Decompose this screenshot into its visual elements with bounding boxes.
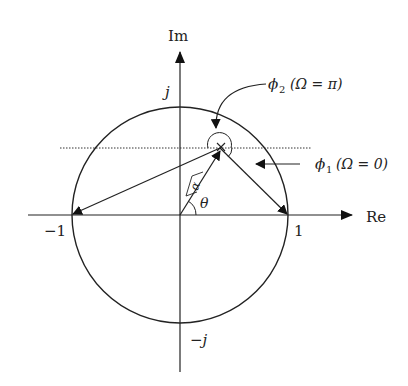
phi2-condition: (Ω = π) — [290, 76, 342, 92]
vector-to-plus-one — [220, 148, 287, 214]
phi1-condition: (Ω = 0) — [336, 156, 388, 172]
real-axis-label: Re — [366, 208, 386, 226]
imag-axis-label: Im — [168, 27, 188, 45]
tick-neg-j-label: −j — [190, 331, 208, 349]
unit-circle-diagram: Im Re j −j 1 −1 θ α ϕ 2 (Ω = π) ϕ 1 (Ω =… — [0, 0, 408, 386]
tick-neg-one-label: −1 — [44, 222, 66, 240]
phi2-annotation: ϕ 2 (Ω = π) — [268, 75, 342, 95]
alpha-marker-line — [186, 192, 197, 196]
vector-to-minus-one — [73, 148, 220, 214]
phi2-symbol: ϕ — [268, 75, 278, 93]
tick-j-label: j — [162, 83, 170, 101]
phi2-subscript: 2 — [279, 84, 285, 95]
phi1-symbol: ϕ — [315, 155, 325, 173]
phi1-annotation: ϕ 1 (Ω = 0) — [315, 155, 388, 175]
tick-one-label: 1 — [294, 222, 304, 240]
theta-label: θ — [200, 195, 209, 211]
theta-angle-arc — [188, 201, 196, 215]
alpha-marker-line — [192, 172, 203, 176]
phi2-pointer-arrow — [216, 84, 266, 128]
phi1-subscript: 1 — [326, 164, 332, 175]
